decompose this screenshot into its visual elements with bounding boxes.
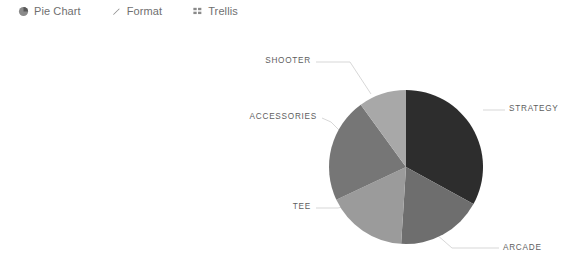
- pie-chart-svg: STRATEGYARCADETEEACCESSORIESSHOOTER: [0, 22, 578, 253]
- toolbar-label-trellis: Trellis: [208, 5, 238, 17]
- pie-chart-icon: [18, 6, 29, 17]
- pie-slices: [329, 90, 483, 244]
- pie-chart-canvas: STRATEGYARCADETEEACCESSORIESSHOOTER: [0, 22, 578, 253]
- pie-slice-label: ACCESSORIES: [250, 112, 317, 121]
- toolbar-label-pie-chart: Pie Chart: [34, 5, 81, 17]
- leader-line: [316, 62, 371, 94]
- pie-slice-label: TEE: [293, 202, 311, 211]
- pie-slice-label: ARCADE: [503, 243, 542, 252]
- toolbar-item-format[interactable]: Format: [111, 5, 162, 17]
- leader-line: [322, 118, 341, 132]
- grid-icon: [192, 6, 203, 17]
- pie-slice-label: STRATEGY: [509, 104, 559, 113]
- chart-toolbar: Pie Chart Format Trellis: [0, 0, 578, 22]
- toolbar-item-trellis[interactable]: Trellis: [192, 5, 238, 17]
- toolbar-label-format: Format: [127, 5, 162, 17]
- pie-slice-label: SHOOTER: [265, 56, 311, 65]
- pencil-icon: [111, 6, 122, 17]
- toolbar-item-pie-chart[interactable]: Pie Chart: [18, 5, 81, 17]
